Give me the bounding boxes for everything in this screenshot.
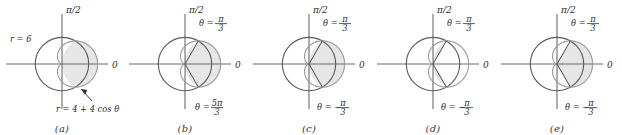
svg-text:θ = −: θ = − (441, 102, 465, 112)
svg-text:3: 3 (218, 23, 223, 33)
panel-caption: (b) (123, 123, 247, 134)
horizontal-axis-label: 0 (235, 60, 241, 70)
horizontal-axis-label: 0 (483, 60, 489, 70)
theta-upper-label: θ = π3 (447, 14, 475, 33)
panel-c: π/20θ = π3θ = −π3(c) (247, 0, 371, 135)
panel-b: π/20θ = π3θ = 5π3(b) (123, 0, 247, 135)
cardioid-equation-label: r = 4 + 4 cos θ (56, 104, 119, 114)
panel-caption: (d) (371, 123, 495, 134)
theta-upper-label: θ = π3 (323, 14, 351, 33)
panel-a: π/20r = 6r = 4 + 4 cos θ(a) (0, 0, 124, 135)
svg-text:θ = −: θ = − (317, 102, 341, 112)
circle-equation-label: r = 6 (10, 34, 31, 44)
svg-text:3: 3 (590, 23, 595, 33)
panel-caption: (a) (0, 123, 124, 134)
vertical-axis-label: π/2 (436, 5, 452, 15)
svg-text:θ =: θ = (199, 18, 214, 28)
horizontal-axis-label: 0 (112, 60, 118, 70)
svg-text:θ = −: θ = − (565, 102, 589, 112)
leader-arrowhead (81, 89, 87, 95)
svg-text:3: 3 (214, 107, 219, 117)
theta-upper-label: θ = π3 (571, 14, 599, 33)
panel-caption: (c) (247, 123, 371, 134)
polar-figure-strip: π/20r = 6r = 4 + 4 cos θ(a)π/20θ = π3θ =… (0, 0, 622, 135)
svg-text:3: 3 (588, 107, 593, 117)
svg-text:r = 6: r = 6 (10, 34, 31, 44)
svg-text:θ =: θ = (323, 18, 338, 28)
panel-d: π/20θ = π3θ = −π3(d) (371, 0, 495, 135)
svg-text:3: 3 (466, 23, 471, 33)
vertical-axis-label: π/2 (560, 5, 576, 15)
panel-caption: (e) (495, 123, 619, 134)
horizontal-axis-label: 0 (607, 60, 613, 70)
svg-text:r = 4 + 4 cos θ: r = 4 + 4 cos θ (56, 104, 119, 114)
horizontal-axis-label: 0 (359, 60, 365, 70)
theta-lower-label: θ = −π3 (565, 98, 597, 117)
svg-text:θ =: θ = (447, 18, 462, 28)
vertical-axis-label: π/2 (312, 5, 328, 15)
theta-lower-label: θ = 5π3 (195, 98, 223, 117)
vertical-axis-label: π/2 (188, 5, 204, 15)
theta-upper-label: θ = π3 (199, 14, 227, 33)
theta-lower-label: θ = −π3 (441, 98, 473, 117)
svg-text:θ =: θ = (195, 102, 210, 112)
svg-text:θ =: θ = (571, 18, 586, 28)
panel-e: π/20θ = π3θ = −π3(e) (495, 0, 619, 135)
svg-text:3: 3 (464, 107, 469, 117)
theta-lower-label: θ = −π3 (317, 98, 349, 117)
svg-text:3: 3 (340, 107, 345, 117)
vertical-axis-label: π/2 (65, 5, 81, 15)
svg-text:3: 3 (342, 23, 347, 33)
